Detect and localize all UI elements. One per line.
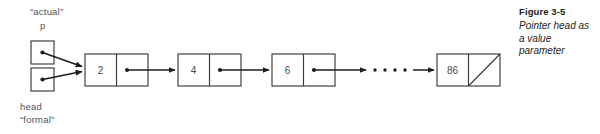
figure-caption-title: Figure 3-5 — [519, 6, 597, 17]
node-3-value: 6 — [285, 65, 291, 76]
list-node-4: 86 — [437, 54, 500, 86]
figure-3-5-container: “actual” p head “formal” 2 4 — [0, 0, 600, 134]
label-head: head — [20, 101, 42, 112]
linked-list-diagram: “actual” p head “formal” 2 4 — [0, 0, 600, 134]
figure-caption-body: Pointer head as a value parameter — [519, 20, 597, 58]
label-formal: “formal” — [20, 114, 54, 125]
node-1-value: 2 — [98, 65, 104, 76]
figure-caption: Figure 3-5 Pointer head as a value param… — [519, 6, 597, 58]
node-4-value: 86 — [447, 65, 459, 76]
label-actual: “actual” — [30, 6, 63, 17]
node-2-value: 4 — [191, 65, 197, 76]
label-p: p — [40, 20, 45, 31]
ellipsis-dots — [373, 68, 406, 71]
